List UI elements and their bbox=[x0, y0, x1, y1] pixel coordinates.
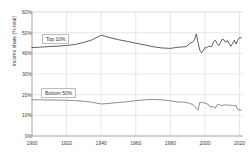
series-label-bottom-50: Bottom 50% bbox=[41, 88, 76, 98]
series-lines bbox=[32, 34, 241, 110]
income-share-line-chart: Income share (% total) 0%10%20%30%40%50%… bbox=[0, 0, 250, 159]
plot-area bbox=[0, 0, 250, 159]
x-tick-label: 1940 bbox=[96, 140, 107, 146]
x-tick-label: 1920 bbox=[61, 140, 72, 146]
x-tick-label: 1980 bbox=[165, 140, 176, 146]
x-tick-label: 1960 bbox=[130, 140, 141, 146]
gridlines bbox=[32, 12, 243, 136]
x-tick-label: 1900 bbox=[26, 140, 37, 146]
series-line-bottom-50 bbox=[32, 99, 241, 110]
x-tick-label: 2020 bbox=[234, 140, 245, 146]
series-label-top-10: Top 10% bbox=[42, 34, 69, 44]
x-tick-label: 2000 bbox=[199, 140, 210, 146]
